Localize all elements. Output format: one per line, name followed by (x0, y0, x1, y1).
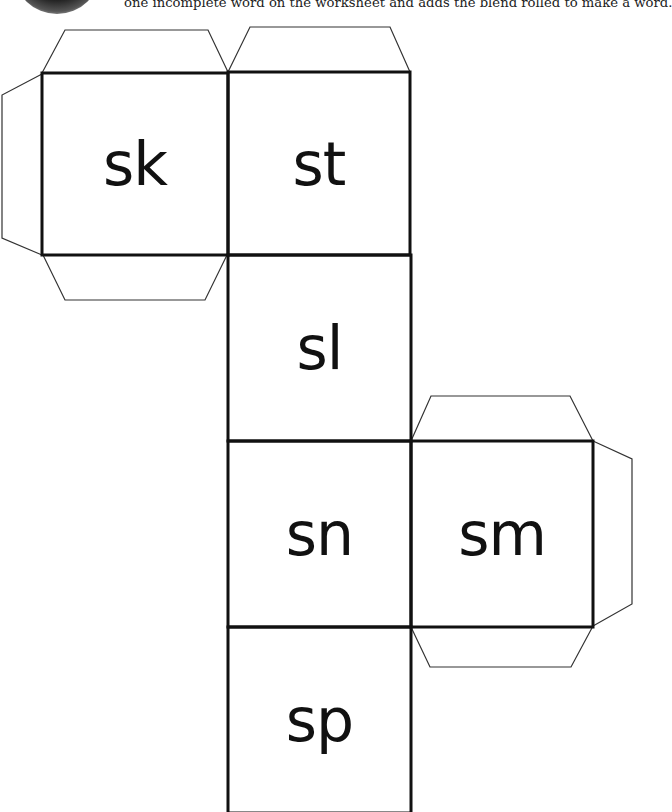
face-sl-label: sl (297, 313, 343, 383)
flap-sk-top (42, 30, 228, 73)
face-sn: sn (228, 441, 411, 627)
face-sp: sp (228, 627, 411, 812)
face-sm: sm (411, 441, 593, 627)
face-st-label: st (293, 129, 346, 199)
flap-sm-top (411, 396, 593, 441)
flap-sk-left (2, 74, 42, 255)
flap-st-top (228, 27, 410, 72)
face-sl: sl (228, 255, 411, 441)
face-sm-label: sm (458, 499, 546, 569)
face-sn-label: sn (286, 499, 353, 569)
flap-sk-bottom (43, 255, 227, 300)
face-sp-label: sp (286, 685, 353, 755)
flap-sm-right (593, 441, 632, 626)
face-st: st (228, 72, 410, 255)
face-sk: sk (42, 73, 228, 255)
flap-sm-bottom (411, 626, 593, 667)
face-sk-label: sk (103, 129, 167, 199)
